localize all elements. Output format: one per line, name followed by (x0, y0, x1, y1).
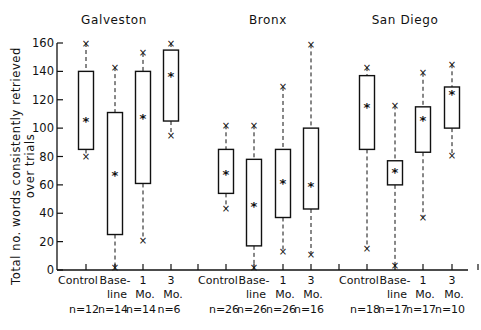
box-3: ××* (445, 59, 460, 161)
y-tick-label: 40 (39, 206, 54, 220)
mean-marker: * (449, 87, 456, 102)
mean-marker: * (251, 199, 258, 214)
extreme-marker: × (139, 47, 147, 58)
y-tick-label: 120 (32, 93, 54, 107)
extreme-marker: × (391, 100, 399, 111)
mean-marker: * (83, 114, 90, 129)
group-label-line2: Mo. (163, 288, 183, 301)
group-label: Control (339, 274, 379, 287)
group-label: Base- (380, 274, 411, 287)
y-tick-label: 60 (39, 178, 54, 192)
panel-title: Galveston (81, 13, 147, 27)
y-tick-label: 100 (32, 121, 54, 135)
box-base: ××* (388, 100, 403, 271)
extreme-marker: × (448, 150, 456, 161)
group-n: n=17 (378, 303, 408, 316)
group-label: 1 (420, 274, 427, 287)
group-label-line2: line (246, 288, 266, 301)
group-n: n=10 (435, 303, 465, 316)
y-tick-label: 140 (32, 64, 54, 78)
y-tick-label: 160 (32, 36, 54, 50)
group-label: 3 (449, 274, 456, 287)
box-3: ××* (164, 38, 179, 141)
panel-title: Bronx (249, 13, 287, 27)
mean-marker: * (392, 165, 399, 180)
group-label: Base- (239, 274, 270, 287)
iqr-box (79, 71, 94, 149)
group-label: Base- (100, 274, 131, 287)
group-label-line2: Mo. (303, 288, 323, 301)
extreme-marker: × (307, 39, 315, 50)
group-label: Control (58, 274, 98, 287)
group-n: n=18 (350, 303, 380, 316)
iqr-box (164, 50, 179, 121)
box-3: ××* (304, 39, 319, 260)
group-n: n=26 (237, 303, 267, 316)
extreme-marker: × (167, 38, 175, 49)
y-axis-label-line1: Total no. words consistently retrieved (9, 47, 23, 286)
box-1: ××* (416, 67, 431, 223)
extreme-marker: × (363, 243, 371, 254)
mean-marker: * (308, 179, 315, 194)
y-tick-label: 20 (39, 235, 54, 249)
iqr-box (304, 128, 319, 209)
group-label: 1 (140, 274, 147, 287)
extreme-marker: × (82, 151, 90, 162)
extreme-marker: × (222, 203, 230, 214)
box-1: ××* (136, 47, 151, 245)
mean-marker: * (420, 113, 427, 128)
extreme-marker: × (111, 62, 119, 73)
extreme-marker: × (139, 235, 147, 246)
group-n: n=14 (98, 303, 128, 316)
group-label: 3 (168, 274, 175, 287)
group-n: n=6 (157, 303, 180, 316)
box-base: ××* (247, 120, 262, 273)
group-label: 1 (280, 274, 287, 287)
y-tick-label: 80 (39, 150, 54, 164)
extreme-marker: × (363, 62, 371, 73)
group-label-line2: Mo. (275, 288, 295, 301)
box-1: ××* (276, 81, 291, 257)
group-n: n=17 (406, 303, 436, 316)
extreme-marker: × (279, 246, 287, 257)
box-control: ××* (219, 120, 234, 215)
mean-marker: * (112, 168, 119, 183)
y-tick-label: 0 (47, 263, 54, 277)
extreme-marker: × (419, 67, 427, 78)
mean-marker: * (140, 111, 147, 126)
group-label-line2: line (387, 288, 407, 301)
group-n: n=26 (209, 303, 239, 316)
extreme-marker: × (222, 120, 230, 131)
mean-marker: * (364, 100, 371, 115)
box-base: ××* (108, 62, 123, 273)
y-axis-label-line2: over trials (23, 134, 37, 199)
mean-marker: * (168, 69, 175, 84)
extreme-marker: × (250, 120, 258, 131)
group-n: n=26 (266, 303, 296, 316)
panel-title: San Diego (372, 13, 439, 27)
group-n: n=16 (294, 303, 324, 316)
group-n: n=14 (126, 303, 156, 316)
group-label: Control (198, 274, 238, 287)
extreme-marker: × (448, 59, 456, 70)
extreme-marker: × (279, 81, 287, 92)
box-control: ××* (79, 38, 94, 163)
group-n: n=12 (69, 303, 99, 316)
group-label-line2: line (107, 288, 127, 301)
group-label-line2: Mo. (415, 288, 435, 301)
mean-marker: * (223, 167, 230, 182)
extreme-marker: × (82, 38, 90, 49)
group-label-line2: Mo. (135, 288, 155, 301)
y-axis-label: Total no. words consistently retrieved o… (9, 47, 37, 286)
group-label-line2: Mo. (444, 288, 464, 301)
group-label: 3 (308, 274, 315, 287)
extreme-marker: × (167, 130, 175, 141)
extreme-marker: × (419, 212, 427, 223)
extreme-marker: × (307, 249, 315, 260)
box-plot-chart: 020406080100120140160 Total no. words co… (0, 0, 481, 330)
iqr-box (136, 71, 151, 183)
box-control: ××* (360, 62, 375, 255)
mean-marker: * (280, 176, 287, 191)
